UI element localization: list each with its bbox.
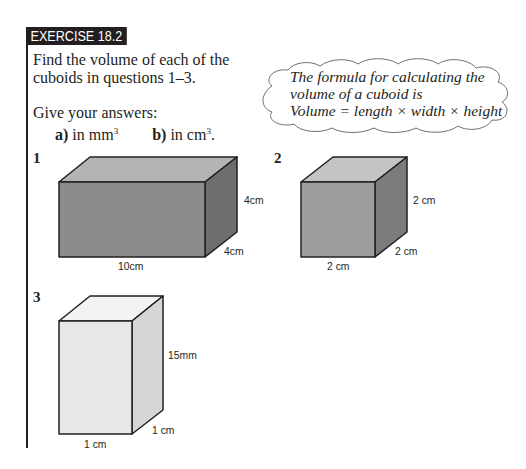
q3-height-label: 15mm: [168, 349, 197, 361]
cuboid-2: [301, 157, 407, 257]
cuboid-3: [59, 296, 163, 434]
q1-width-label: 4cm: [224, 245, 244, 257]
cuboid-1: [59, 157, 237, 257]
q1-length-label: 10cm: [118, 260, 143, 272]
question-number-2: 2: [274, 150, 282, 167]
q2-height-label: 2 cm: [413, 194, 435, 206]
q3-length-label: 1 cm: [84, 438, 106, 450]
q1-height-label: 4cm: [244, 194, 264, 206]
q2-width-label: 2 cm: [395, 245, 417, 257]
q2-length-label: 2 cm: [327, 260, 349, 272]
question-number-1: 1: [33, 150, 41, 167]
cuboid-diagrams: [0, 0, 526, 469]
q3-width-label: 1 cm: [152, 424, 174, 436]
question-number-3: 3: [33, 289, 41, 306]
